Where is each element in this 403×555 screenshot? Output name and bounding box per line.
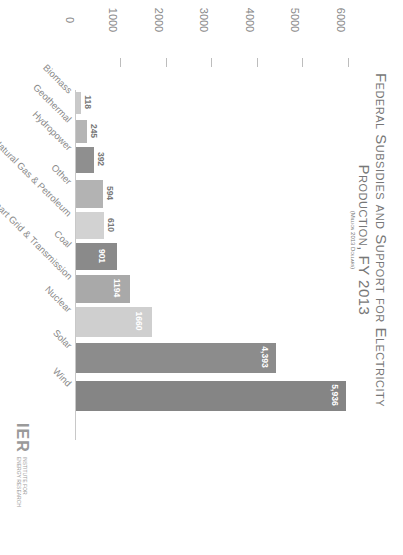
bar-value-label: 5,936 bbox=[330, 384, 340, 405]
category-label: Other bbox=[50, 163, 74, 187]
tickmark bbox=[120, 58, 121, 67]
category-label: Nuclear bbox=[43, 284, 73, 314]
bar-biomass bbox=[76, 92, 81, 114]
logo-mark: IER bbox=[13, 423, 31, 453]
bar-value-label: 1660 bbox=[134, 312, 144, 331]
bar-value-label: 392 bbox=[96, 152, 106, 166]
logo-text: Institute for Energy Research bbox=[16, 457, 28, 507]
bar-geothermal bbox=[76, 120, 87, 143]
tickmark bbox=[302, 58, 303, 67]
title-line-1: Federal Subsidies and Support for Electr… bbox=[373, 73, 390, 407]
tick-6000: 6000 bbox=[335, 8, 347, 32]
bar-value-label: 118 bbox=[83, 95, 93, 109]
tickmark bbox=[348, 58, 349, 67]
bar-hydropower bbox=[76, 147, 94, 173]
ier-logo: IER Institute for Energy Research bbox=[13, 423, 31, 507]
tick-2000: 2000 bbox=[153, 8, 165, 32]
tick-1000: 1000 bbox=[107, 8, 119, 32]
category-label: Solar bbox=[51, 328, 74, 351]
bar-value-label: 1194 bbox=[113, 279, 123, 297]
title-subtitle: (Million 2013 Dollars) bbox=[350, 73, 356, 407]
category-label: Coal bbox=[53, 228, 74, 249]
tick-5000: 5000 bbox=[289, 8, 301, 32]
bar-value-label: 4,393 bbox=[260, 346, 270, 367]
bar-value-label: 610 bbox=[106, 217, 116, 231]
tickmark bbox=[166, 58, 167, 67]
bar-value-label: 245 bbox=[89, 123, 99, 137]
tick-3000: 3000 bbox=[198, 8, 210, 32]
logo-line-2: Energy Research bbox=[16, 457, 22, 507]
chart-title: Federal Subsidies and Support for Electr… bbox=[350, 73, 390, 407]
bar-other bbox=[76, 180, 103, 208]
bar-value-label: 594 bbox=[105, 186, 115, 200]
category-label: Wind bbox=[51, 366, 73, 388]
bar-natural-gas-petroleum bbox=[76, 212, 104, 239]
tick-4000: 4000 bbox=[244, 8, 256, 32]
logo-line-1: Institute for bbox=[22, 457, 28, 495]
tick-0: 0 bbox=[64, 17, 76, 23]
bar-wind bbox=[76, 381, 346, 411]
bar-value-label: 901 bbox=[97, 248, 107, 262]
title-line-2: Production, FY 2013 bbox=[356, 73, 373, 407]
tickmark bbox=[211, 58, 212, 67]
tickmark bbox=[257, 58, 258, 67]
bar-solar bbox=[76, 343, 276, 373]
